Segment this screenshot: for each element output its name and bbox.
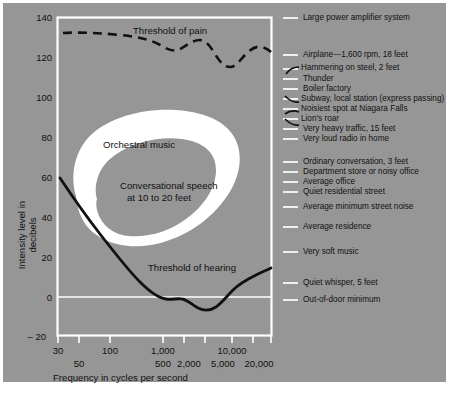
scale-label-quiet-whisper: Quiet whisper, 5 feet xyxy=(303,278,378,287)
y-tick-80: 80 xyxy=(18,132,52,143)
scale-label-lions-roar: Lion's roar xyxy=(301,114,339,123)
x-tick-100: 100 xyxy=(99,345,121,356)
x-tick-5000: 5,000 xyxy=(207,358,239,369)
scale-label-very-heavy-traffic: Very heavy traffic, 15 feet xyxy=(303,124,395,133)
y-axis-title: Intensity level in decibels xyxy=(16,189,38,281)
x-tick-30: 30 xyxy=(47,345,69,356)
y-tick-100: 100 xyxy=(18,92,52,103)
scale-label-very-loud-radio: Very loud radio in home xyxy=(303,134,389,143)
scale-label-niagara-falls: Noisiest spot at Niagara Falls xyxy=(301,104,407,113)
scale-label-average-office: Average office xyxy=(303,177,355,186)
scale-label-boiler-factory: Boiler factory xyxy=(303,84,351,93)
x-tick-10000: 10,000 xyxy=(216,345,248,356)
y-tick-60: 60 xyxy=(18,172,52,183)
threshold-of-pain-curve xyxy=(63,33,271,67)
x-tick-1000: 1,000 xyxy=(148,345,178,356)
scale-label-quiet-residential-street: Quiet residential street xyxy=(303,187,385,196)
scale-label-airplane: Airplane—1,600 rpm, 18 feet xyxy=(303,50,408,59)
scale-label-thunder: Thunder xyxy=(303,74,334,83)
x-tick-20000: 20,000 xyxy=(241,358,277,369)
conversational-speech-label-line2: at 10 to 20 feet xyxy=(127,192,191,203)
threshold-of-pain-label: Threshold of pain xyxy=(133,25,207,36)
scale-label-average-residence: Average residence xyxy=(303,222,371,231)
scale-label-ordinary-conversation: Ordinary conversation, 3 feet xyxy=(303,157,408,166)
x-tick-50: 50 xyxy=(68,358,90,369)
y-tick-neg20: – 20 xyxy=(12,331,46,342)
scale-label-average-minimum-street-noise: Average minimum street noise xyxy=(303,202,413,211)
scale-label-out-of-door-minimum: Out-of-door minimum xyxy=(303,295,380,304)
scale-label-hammering-on-steel: Hammering on steel, 2 feet xyxy=(301,63,399,72)
scale-label-department-store: Department store or noisy office xyxy=(303,167,419,176)
scale-label-subway-local-station: Subway, local station (express passing) xyxy=(301,94,444,103)
y-tick-140: 140 xyxy=(18,12,52,23)
right-scale-ticks xyxy=(283,18,298,300)
orchestral-music-label: Orchestral music xyxy=(103,139,175,150)
scale-label-large-power-amplifier-system: Large power amplifier system xyxy=(303,13,410,22)
y-tick-0: 0 xyxy=(18,292,52,303)
chart-page: 140 120 100 80 60 40 20 0 – 20 Intensity… xyxy=(0,0,449,408)
threshold-of-hearing-label: Threshold of hearing xyxy=(148,262,236,273)
x-tick-2000: 2,000 xyxy=(173,358,205,369)
y-tick-120: 120 xyxy=(18,52,52,63)
leader-lines xyxy=(285,67,299,125)
scale-label-very-soft-music: Very soft music xyxy=(303,247,359,256)
x-axis-title: Frequency in cycles per second xyxy=(53,372,188,383)
x-axis-ticks xyxy=(58,336,271,343)
conversational-speech-label-line1: Conversational speech xyxy=(120,180,218,191)
